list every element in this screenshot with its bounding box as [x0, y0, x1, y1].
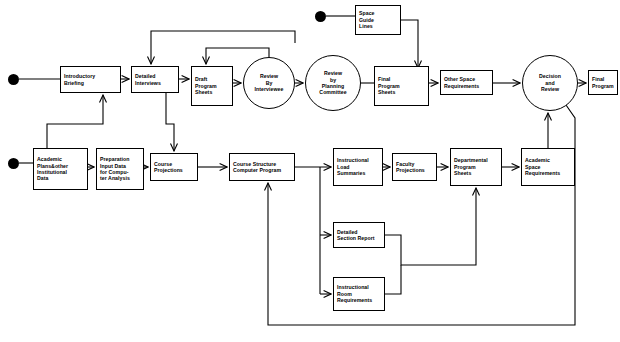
- edge-decision-feedback-structure: [268, 105, 575, 325]
- node-label-line: Requirements: [525, 170, 571, 176]
- node-label-line: Projections: [396, 167, 433, 173]
- node-preparation-input-data[interactable]: Preparation Input Data for Compu- ter An…: [96, 148, 144, 190]
- node-academic-space-requirements[interactable]: Academic Space Requirements: [521, 148, 575, 186]
- node-label-line: Committee: [319, 89, 346, 95]
- node-course-projections[interactable]: Course Projections: [150, 153, 198, 181]
- edge-detailed-section-departmental: [385, 188, 476, 265]
- node-decision-and-review[interactable]: Decision and Review: [522, 55, 578, 111]
- node-label-line: ter Analysis: [100, 175, 140, 181]
- node-label-line: Projections: [154, 167, 194, 173]
- edge-academic-plans-interviews: [47, 95, 103, 148]
- node-draft-program-sheets[interactable]: Draft Program Sheets: [191, 66, 233, 106]
- node-academic-plans[interactable]: Academic Plans&other Institutional Data: [33, 148, 88, 190]
- node-label-line: Computer Program: [233, 167, 291, 173]
- node-label-line: Requirements: [444, 83, 489, 89]
- edge-guide-lines-other-space: [401, 20, 418, 68]
- terminator-start-briefing: [8, 74, 19, 85]
- node-label-line: Sheets: [378, 89, 425, 95]
- terminator-start-space-guide-lines: [315, 11, 326, 22]
- node-label-line: Summaries: [337, 170, 379, 176]
- node-label-line: Briefing: [64, 80, 117, 86]
- node-label-line: Requirements: [337, 297, 381, 303]
- node-instructional-load-summaries[interactable]: Instructional Load Summaries: [333, 148, 383, 186]
- node-course-structure-computer-program[interactable]: Course Structure Computer Program: [229, 153, 295, 181]
- node-label-line: Section Report: [337, 235, 381, 241]
- node-label-line: Lines: [359, 23, 397, 29]
- node-introductory-briefing[interactable]: Introductory Briefing: [60, 66, 121, 93]
- node-label-line: Data: [37, 175, 84, 181]
- flow-diagram-canvas: Introductory Briefing Detailed Interview…: [0, 0, 620, 342]
- edge-room-requirements-departmental: [385, 265, 401, 294]
- node-label-line: Interviews: [135, 80, 175, 86]
- node-final-program[interactable]: Final Program: [588, 70, 618, 95]
- node-review-by-interviewee[interactable]: Review By Interviewee: [243, 57, 295, 109]
- node-other-space-requirements[interactable]: Other Space Requirements: [440, 70, 493, 95]
- node-faculty-projections[interactable]: Faculty Projections: [392, 153, 437, 181]
- node-label-line: Interviewee: [255, 86, 284, 92]
- node-label-line: Program: [592, 83, 614, 89]
- node-space-guide-lines[interactable]: Space Guide Lines: [355, 5, 401, 35]
- node-detailed-section-report[interactable]: Detailed Section Report: [333, 222, 385, 248]
- node-instructional-room-requirements[interactable]: Instructional Room Requirements: [333, 277, 385, 311]
- node-label-line: Sheets: [195, 89, 229, 95]
- terminator-start-academic-plans: [8, 158, 19, 169]
- node-departmental-program-sheets[interactable]: Departmental Program Sheets: [450, 148, 502, 186]
- node-review-by-planning-committee[interactable]: Review by Planning Committee: [305, 55, 361, 111]
- node-final-program-sheets[interactable]: Final Program Sheets: [374, 66, 429, 106]
- node-label-line: Review: [541, 86, 559, 92]
- edge-interviews-course-projections: [166, 93, 174, 151]
- node-detailed-interviews[interactable]: Detailed Interviews: [131, 66, 179, 93]
- node-label-line: Sheets: [454, 170, 498, 176]
